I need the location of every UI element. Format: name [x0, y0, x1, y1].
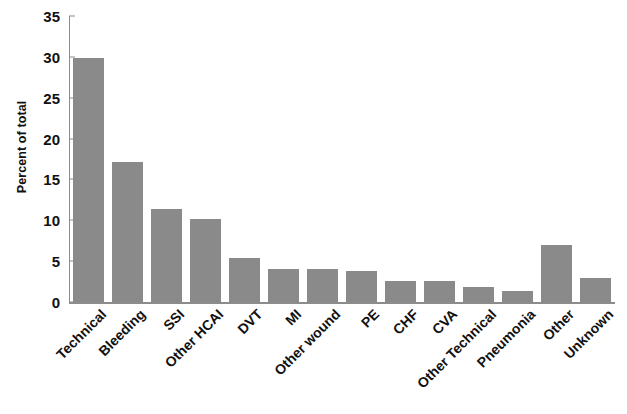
y-axis-title: Percent of total	[15, 67, 29, 227]
bar[interactable]	[580, 278, 612, 302]
bar[interactable]	[268, 269, 300, 303]
x-axis-line	[69, 302, 615, 304]
bar[interactable]	[151, 209, 183, 302]
y-tick-label: 0	[52, 294, 69, 311]
bar[interactable]	[73, 58, 105, 302]
x-tick-label-text: DVT	[234, 306, 265, 337]
x-tick-label-text: PE	[357, 306, 382, 331]
y-tick-label: 15	[43, 171, 69, 188]
y-tick-label: 10	[43, 212, 69, 229]
bar[interactable]	[307, 269, 339, 303]
bar[interactable]	[424, 281, 456, 302]
y-tick-mark	[69, 16, 75, 17]
x-tick-label-text: SSI	[160, 306, 187, 333]
x-tick-label-text: CHF	[389, 306, 421, 338]
x-tick-label[interactable]: MI	[281, 306, 303, 328]
bar[interactable]	[112, 162, 144, 302]
plot-area: 05101520253035	[69, 16, 615, 302]
x-tick-label-text: CVA	[428, 306, 459, 337]
x-tick-label[interactable]: CVA	[428, 306, 459, 337]
y-tick-label: 25	[43, 89, 69, 106]
bar[interactable]	[463, 287, 495, 302]
x-tick-label[interactable]: PE	[357, 306, 382, 331]
y-tick-label: 30	[43, 48, 69, 65]
bar[interactable]	[346, 271, 378, 302]
bar[interactable]	[190, 219, 222, 302]
x-tick-label-text: MI	[281, 306, 303, 328]
bar[interactable]	[502, 291, 534, 302]
bar[interactable]	[385, 281, 417, 302]
y-tick-label: 5	[52, 253, 69, 270]
bar-chart: Percent of total 05101520253035 Technica…	[0, 0, 627, 414]
y-tick-label: 35	[43, 8, 69, 25]
x-tick-label[interactable]: SSI	[160, 306, 187, 333]
bar[interactable]	[229, 258, 261, 302]
bar[interactable]	[541, 245, 573, 302]
x-tick-label[interactable]: DVT	[234, 306, 265, 337]
y-tick-label: 20	[43, 130, 69, 147]
x-tick-label[interactable]: CHF	[389, 306, 421, 338]
